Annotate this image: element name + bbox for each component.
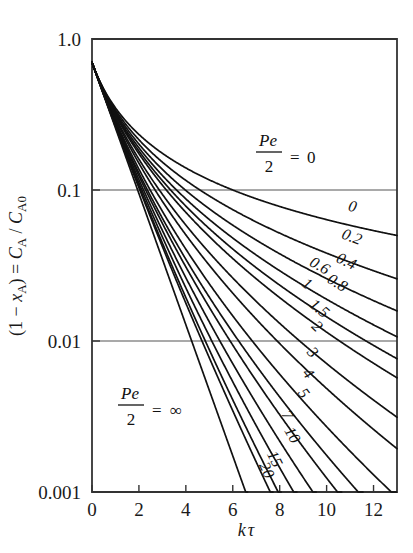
y-title-x: x: [6, 294, 26, 303]
annot-bottom-eq: =: [152, 401, 162, 420]
annot-top-eq: =: [290, 148, 300, 167]
x-tick-label: 4: [181, 499, 191, 520]
annot-bottom-pe: Pe: [120, 384, 139, 403]
annot-bottom-value: ∞: [170, 401, 182, 420]
y-tick-label: 0.1: [57, 180, 81, 201]
y-tick-label: 1.0: [57, 29, 81, 50]
annot-top-two: 2: [265, 157, 274, 176]
y-tick-label: 0.001: [38, 482, 81, 503]
chart-background: [0, 0, 413, 553]
y-title-mid: ) =: [6, 259, 27, 284]
x-tick-label: 10: [317, 499, 336, 520]
y-tick-label: 0.01: [48, 331, 81, 352]
x-tick-label: 12: [364, 499, 383, 520]
x-title-k: k: [238, 520, 247, 540]
x-tick-label: 6: [228, 499, 238, 520]
svg-text:(1 − xA) = CA / CA0: (1 − xA) = CA / CA0: [6, 196, 29, 336]
chart-svg: 1.00.10.010.001 024681012 00.20.40.60.81…: [0, 0, 413, 553]
x-title-tau: τ: [248, 520, 255, 540]
x-tick-label: 2: [134, 499, 144, 520]
y-title-slash: /: [6, 224, 26, 238]
annot-top-value: 0: [307, 148, 316, 167]
y-axis-title: (1 − xA) = CA / CA0: [6, 196, 29, 336]
y-title-open: (1 −: [6, 302, 27, 336]
dispersion-model-chart: 1.00.10.010.001 024681012 00.20.40.60.81…: [0, 0, 413, 553]
y-title-c2-sub: A0: [14, 196, 29, 212]
annot-bottom-two: 2: [127, 410, 136, 429]
x-tick-label: 8: [275, 499, 285, 520]
annot-top-pe: Pe: [258, 131, 277, 150]
x-tick-label: 0: [87, 499, 97, 520]
